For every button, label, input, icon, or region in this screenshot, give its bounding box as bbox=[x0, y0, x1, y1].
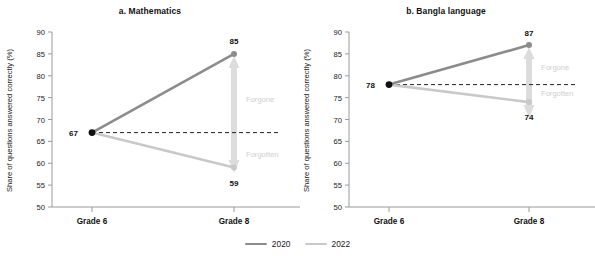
panel-a-ytick-70: 70 bbox=[37, 116, 45, 125]
panel-b-ytick-50: 50 bbox=[334, 203, 342, 212]
panel-a-y-axis-label: Share of questions answered correctly (%… bbox=[4, 30, 16, 210]
panel-a-ytick-75: 75 bbox=[37, 94, 45, 103]
panel-b-x-ticks: Grade 6 Grade 8 bbox=[374, 207, 545, 226]
panel-a-title: a. Mathematics bbox=[0, 6, 300, 16]
panel-a-y-ticks: 90 85 80 75 70 65 60 55 50 bbox=[37, 28, 52, 212]
legend-label-2020: 2020 bbox=[272, 239, 291, 249]
panel-b-point-start bbox=[386, 81, 393, 88]
panel-b-ytick-70: 70 bbox=[334, 116, 342, 125]
panel-b-ytick-65: 65 bbox=[334, 137, 342, 146]
panel-b-ytick-75: 75 bbox=[334, 94, 342, 103]
panel-b-title: b. Bangla language bbox=[297, 6, 595, 16]
panel-a-annotation-forgone: Forgone bbox=[246, 95, 274, 104]
panel-a-label-start: 67 bbox=[69, 129, 78, 138]
panel-b-series-2022-line bbox=[389, 85, 529, 103]
panel-a-chart-svg: 90 85 80 75 70 65 60 55 50 Grade 6 Grade… bbox=[18, 26, 300, 232]
panel-a-series-2020-line bbox=[92, 54, 234, 133]
legend-item-2022[interactable]: 2022 bbox=[305, 239, 351, 249]
panel-b-annotation-forgone: Forgone bbox=[541, 63, 569, 72]
panel-b-point-2022 bbox=[526, 99, 532, 105]
panel-mathematics: a. Mathematics Share of questions answer… bbox=[0, 0, 300, 232]
panel-a-point-2022 bbox=[231, 165, 237, 171]
panel-a-ytick-65: 65 bbox=[37, 137, 45, 146]
panel-a-ytick-85: 85 bbox=[37, 50, 45, 59]
panel-a-forgone-arrow bbox=[229, 56, 240, 136]
panel-b-label-start: 78 bbox=[366, 81, 375, 90]
panel-a-ytick-60: 60 bbox=[37, 159, 45, 168]
panel-b-ytick-90: 90 bbox=[334, 28, 342, 37]
panel-a-label-2022: 59 bbox=[230, 179, 239, 188]
panel-a-ytick-90: 90 bbox=[37, 28, 45, 37]
panel-b-plot-area: 90 85 80 75 70 65 60 55 50 Grade 6 Grade… bbox=[315, 26, 595, 232]
panel-bangla-language: b. Bangla language Share of questions an… bbox=[297, 0, 595, 232]
panel-a-point-2020 bbox=[231, 51, 237, 57]
legend-swatch-2022 bbox=[305, 243, 327, 245]
panel-b-xtick-grade6: Grade 6 bbox=[374, 217, 405, 226]
panel-b-ytick-60: 60 bbox=[334, 159, 342, 168]
panel-a-x-ticks: Grade 6 Grade 8 bbox=[77, 207, 250, 226]
panel-b-chart-svg: 90 85 80 75 70 65 60 55 50 Grade 6 Grade… bbox=[315, 26, 595, 232]
panel-a-ytick-80: 80 bbox=[37, 72, 45, 81]
panel-b-xtick-grade8: Grade 8 bbox=[514, 217, 545, 226]
panel-b-label-2020: 87 bbox=[525, 29, 534, 38]
chart-legend: 2020 2022 bbox=[0, 232, 595, 256]
panel-b-forgone-arrow bbox=[524, 47, 535, 88]
legend-label-2022: 2022 bbox=[332, 239, 351, 249]
figure-two-panel-learning-loss: a. Mathematics Share of questions answer… bbox=[0, 0, 595, 256]
panel-b-ytick-85: 85 bbox=[334, 50, 342, 59]
panel-a-label-2020: 85 bbox=[230, 37, 239, 46]
panel-b-ytick-80: 80 bbox=[334, 72, 342, 81]
panel-b-series-2020-line bbox=[389, 45, 529, 85]
legend-item-2020[interactable]: 2020 bbox=[245, 239, 291, 249]
panel-a-plot-area: 90 85 80 75 70 65 60 55 50 Grade 6 Grade… bbox=[18, 26, 300, 232]
panel-b-ytick-55: 55 bbox=[334, 181, 342, 190]
panel-b-annotation-forgotten: Forgotten bbox=[541, 89, 574, 98]
panel-a-xtick-grade8: Grade 8 bbox=[219, 217, 250, 226]
panel-a-point-start bbox=[89, 129, 96, 136]
legend-swatch-2020 bbox=[245, 243, 267, 245]
panel-b-y-axis-label: Share of questions answered correctly (%… bbox=[301, 30, 313, 210]
panel-a-annotation-forgotten: Forgotten bbox=[246, 150, 279, 159]
panel-b-y-ticks: 90 85 80 75 70 65 60 55 50 bbox=[334, 28, 349, 212]
panel-a-ytick-55: 55 bbox=[37, 181, 45, 190]
panel-b-label-2022: 74 bbox=[525, 113, 534, 122]
panel-b-point-2020 bbox=[526, 42, 532, 48]
panel-a-xtick-grade6: Grade 6 bbox=[77, 217, 108, 226]
panel-a-ytick-50: 50 bbox=[37, 203, 45, 212]
panel-a-series-2022-line bbox=[92, 133, 234, 168]
